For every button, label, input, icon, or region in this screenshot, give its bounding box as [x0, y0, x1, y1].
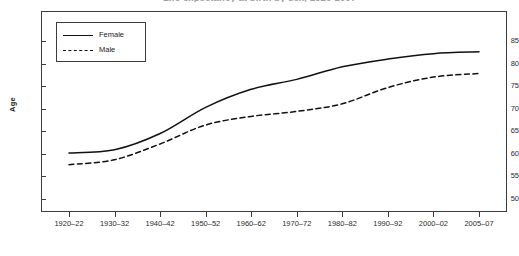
y-tick-label: 60: [497, 150, 519, 158]
legend-item-male: Male: [63, 44, 115, 56]
legend-label-female: Female: [99, 31, 124, 39]
x-tick-mark: [115, 212, 116, 217]
y-tick-mark: [41, 131, 46, 132]
y-tick-mark: [41, 176, 46, 177]
x-tick-mark: [206, 212, 207, 217]
y-tick-label: 70: [497, 105, 519, 113]
y-tick-label: 85: [497, 37, 519, 45]
chart-figure: Age 8580757065605550 1920–221930–321940–…: [0, 0, 519, 256]
legend-swatch-solid-icon: [63, 35, 93, 36]
y-tick-label: 75: [497, 82, 519, 90]
y-tick-mark: [41, 109, 46, 110]
y-tick-mark: [41, 64, 46, 65]
y-tick-label: 80: [497, 60, 519, 68]
y-tick-mark: [41, 199, 46, 200]
chart-legend: Female Male: [56, 22, 146, 62]
y-tick-mark: [41, 154, 46, 155]
legend-swatch-dashed-icon: [63, 50, 93, 51]
x-tick-mark: [388, 212, 389, 217]
x-tick-mark: [479, 212, 480, 217]
x-tick-mark: [342, 212, 343, 217]
y-tick-label: 65: [497, 127, 519, 135]
y-tick-mark: [41, 86, 46, 87]
y-tick-label: 55: [497, 172, 519, 180]
x-tick-mark: [160, 212, 161, 217]
legend-item-female: Female: [63, 29, 124, 41]
x-tick-mark: [297, 212, 298, 217]
legend-label-male: Male: [99, 46, 115, 54]
x-tick-mark: [433, 212, 434, 217]
x-tick-mark: [251, 212, 252, 217]
x-tick-mark: [69, 212, 70, 217]
y-tick-label: 50: [497, 195, 519, 203]
y-axis-title: Age: [8, 85, 17, 125]
x-tick-label: 2005–07: [451, 219, 507, 228]
y-tick-mark: [41, 41, 46, 42]
